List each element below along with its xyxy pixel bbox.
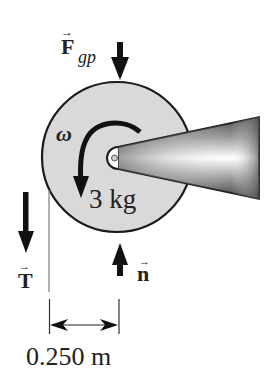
dimension-label: 0.250 m: [26, 342, 111, 371]
gravity-force: → F gp: [61, 25, 129, 80]
mass-label: 3 kg: [89, 184, 136, 214]
gravity-symbol: F: [61, 34, 74, 59]
free-body-diagram: ω 3 kg → F gp → T → n 0.250 m: [0, 0, 272, 385]
tension-arrow-shaft: [23, 192, 29, 234]
normal-arrow-shaft: [117, 262, 123, 276]
axle-pin-icon: [112, 155, 118, 161]
gravity-subscript: gp: [78, 47, 96, 67]
tension-symbol: T: [18, 268, 33, 293]
arrow-down-icon: [18, 231, 34, 253]
arrow-up-icon: [112, 243, 128, 265]
arrow-down-icon: [111, 57, 129, 80]
omega-label: ω: [56, 121, 72, 146]
normal-force: → n: [112, 243, 150, 286]
tension-force: → T: [18, 192, 34, 293]
dimension-marker: 0.250 m: [26, 299, 119, 371]
normal-symbol: n: [137, 261, 149, 286]
